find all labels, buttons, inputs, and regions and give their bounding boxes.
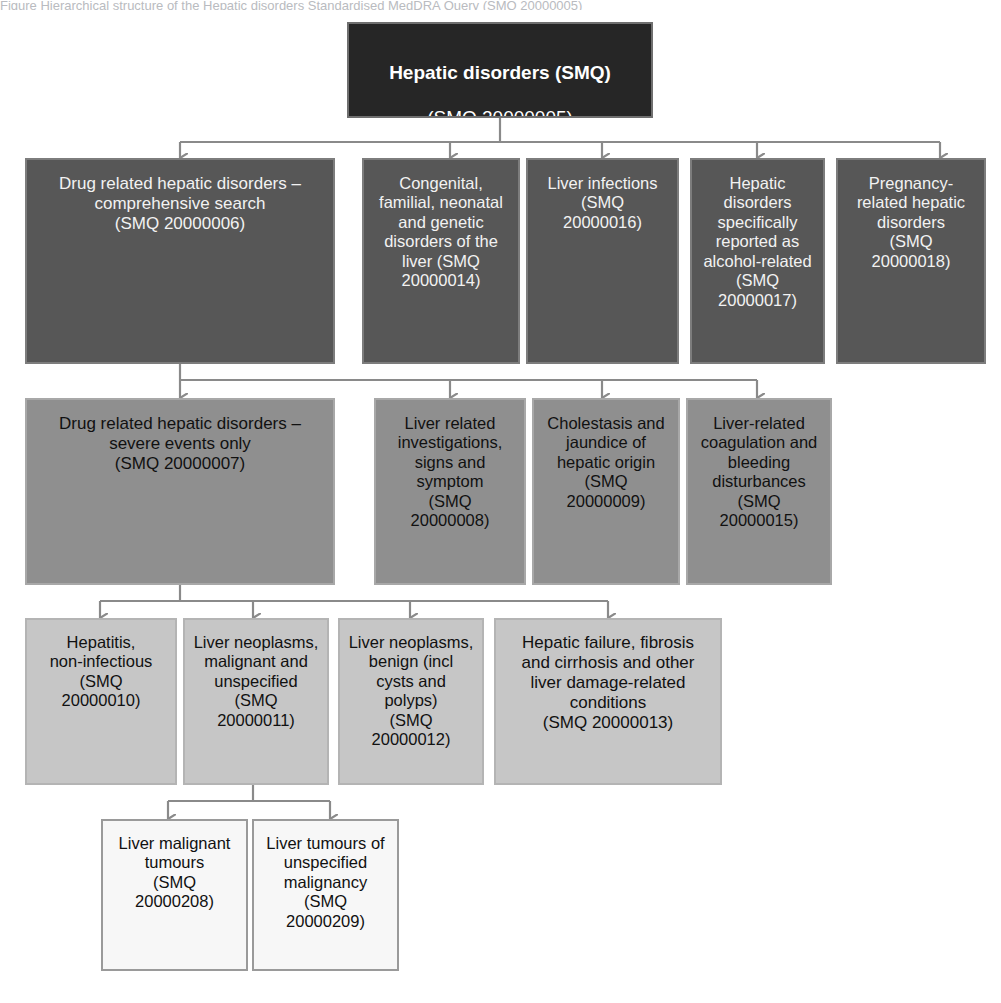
node-hepatic-disorders-alcohol-related[interactable]: Hepatic disorders specifically reported …	[690, 158, 825, 364]
smq-hierarchy-diagram: Figure Hierarchical structure of the Hep…	[0, 0, 1001, 1003]
node-liver-infections[interactable]: Liver infections (SMQ 20000016)	[526, 158, 679, 364]
node-label: Liver neoplasms, malignant and unspecifi…	[185, 633, 327, 730]
node-liver-neoplasms-malignant-unspecified[interactable]: Liver neoplasms, malignant and unspecifi…	[183, 618, 329, 785]
node-label: Liver related investigations, signs and …	[376, 414, 524, 531]
node-liver-tumours-unspecified-malignancy[interactable]: Liver tumours of unspecified malignancy …	[252, 819, 399, 971]
node-drug-related-hepatic-disorders-severe-events-only[interactable]: Drug related hepatic disorders – severe …	[25, 398, 335, 585]
node-label: Pregnancy- related hepatic disorders (SM…	[838, 174, 984, 271]
node-liver-malignant-tumours[interactable]: Liver malignant tumours (SMQ 20000208)	[101, 819, 248, 971]
node-liver-related-investigations-signs-symptom[interactable]: Liver related investigations, signs and …	[374, 398, 526, 585]
node-label: Drug related hepatic disorders – compreh…	[27, 174, 333, 234]
node-label: Liver tumours of unspecified malignancy …	[254, 834, 397, 931]
node-label: Liver malignant tumours (SMQ 20000208)	[103, 834, 246, 912]
node-label: Hepatic disorders (SMQ) (SMQ 20000005)	[349, 40, 651, 118]
node-hepatitis-non-infectious[interactable]: Hepatitis, non-infectious (SMQ 20000010)	[25, 618, 177, 785]
root-title: Hepatic disorders (SMQ)	[353, 62, 647, 84]
node-label: Congenital, familial, neonatal and genet…	[364, 174, 518, 291]
node-label: Hepatic disorders specifically reported …	[692, 174, 823, 310]
node-label: Drug related hepatic disorders – severe …	[27, 414, 333, 474]
node-congenital-familial-neonatal-genetic-disorders-liver[interactable]: Congenital, familial, neonatal and genet…	[362, 158, 520, 364]
node-drug-related-hepatic-disorders-comprehensive-search[interactable]: Drug related hepatic disorders – compreh…	[25, 158, 335, 364]
node-liver-related-coagulation-bleeding-disturbances[interactable]: Liver-related coagulation and bleeding d…	[686, 398, 832, 585]
node-label: Liver neoplasms, benign (incl cysts and …	[340, 633, 482, 750]
node-label: Liver infections (SMQ 20000016)	[528, 174, 677, 232]
cropped-figure-caption: Figure Hierarchical structure of the Hep…	[0, 0, 1001, 10]
node-pregnancy-related-hepatic-disorders[interactable]: Pregnancy- related hepatic disorders (SM…	[836, 158, 986, 364]
node-label: Hepatic failure, fibrosis and cirrhosis …	[496, 633, 720, 733]
node-liver-neoplasms-benign[interactable]: Liver neoplasms, benign (incl cysts and …	[338, 618, 484, 785]
node-label: Liver-related coagulation and bleeding d…	[688, 414, 830, 531]
node-cholestasis-jaundice-hepatic-origin[interactable]: Cholestasis and jaundice of hepatic orig…	[532, 398, 680, 585]
node-label: Hepatitis, non-infectious (SMQ 20000010)	[27, 633, 175, 711]
node-hepatic-failure-fibrosis-cirrhosis[interactable]: Hepatic failure, fibrosis and cirrhosis …	[494, 618, 722, 785]
node-hepatic-disorders-smq[interactable]: Hepatic disorders (SMQ) (SMQ 20000005)	[347, 22, 653, 118]
root-code: (SMQ 20000005)	[353, 107, 647, 118]
node-label: Cholestasis and jaundice of hepatic orig…	[534, 414, 678, 511]
